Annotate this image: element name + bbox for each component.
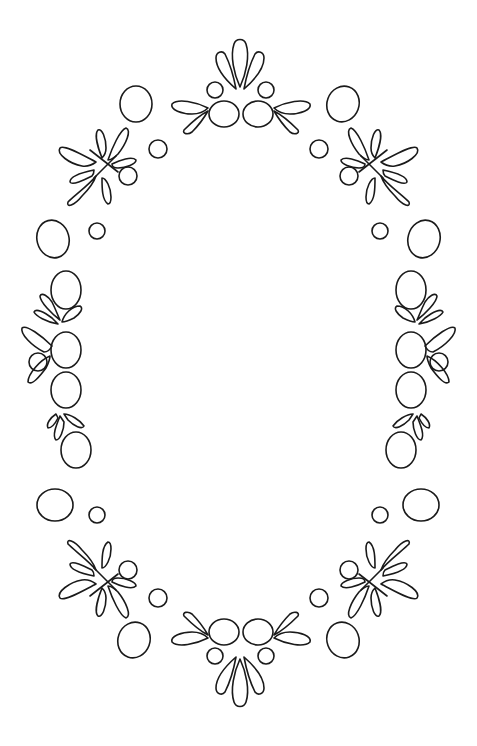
oval-mid-lower-left xyxy=(37,489,73,521)
dot-top-right xyxy=(310,140,328,158)
side-cluster-left xyxy=(22,271,91,468)
oval-mid-upper-left xyxy=(33,217,74,262)
dot-mid-upper-left xyxy=(89,223,105,239)
dot-mid-lower-left xyxy=(89,507,105,523)
bottom-crest xyxy=(172,612,310,706)
dot-bottom-right xyxy=(310,589,328,607)
oval-top-left xyxy=(120,86,152,122)
oval-mid-lower-right xyxy=(403,489,439,521)
oval-bottom-right xyxy=(322,618,364,663)
dot-bottom-left xyxy=(149,589,167,607)
side-cluster-right xyxy=(386,271,455,468)
spray-lower-right xyxy=(340,541,418,618)
spray-lower-left xyxy=(59,541,137,618)
dot-mid-lower-right xyxy=(372,507,388,523)
dot-top-left xyxy=(149,140,167,158)
frame-drawing xyxy=(0,0,477,746)
dot-mid-upper-right xyxy=(372,223,388,239)
ornamental-frame-artwork: Oval ornamental frame line art xyxy=(0,0,477,746)
top-crest xyxy=(172,40,310,134)
oval-top-right xyxy=(322,82,364,127)
spray-upper-left xyxy=(59,128,137,205)
oval-mid-upper-right xyxy=(404,217,445,262)
spray-upper-right xyxy=(340,128,418,205)
oval-bottom-left xyxy=(113,618,155,663)
